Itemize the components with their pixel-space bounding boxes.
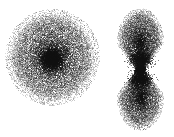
- particle-scatter-figure: [0, 0, 174, 137]
- figure-container: [0, 0, 174, 137]
